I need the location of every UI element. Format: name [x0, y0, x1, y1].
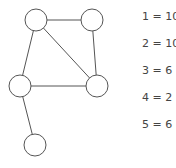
node-E: [24, 134, 46, 156]
node-B: [81, 9, 103, 31]
legend: 1 = 10 2 = 10 3 = 6 4 = 2 5 = 6: [142, 10, 176, 145]
legend-item-3: 3 = 6: [142, 64, 176, 91]
legend-item-4: 4 = 2: [142, 91, 176, 118]
node-C: [9, 75, 31, 97]
legend-item-5: 5 = 6: [142, 118, 176, 145]
legend-item-1: 1 = 10: [142, 10, 176, 37]
nodes-group: [9, 9, 108, 156]
node-A: [25, 9, 47, 31]
legend-item-2: 2 = 10: [142, 37, 176, 64]
edges-group: [20, 20, 97, 145]
node-D: [86, 75, 108, 97]
